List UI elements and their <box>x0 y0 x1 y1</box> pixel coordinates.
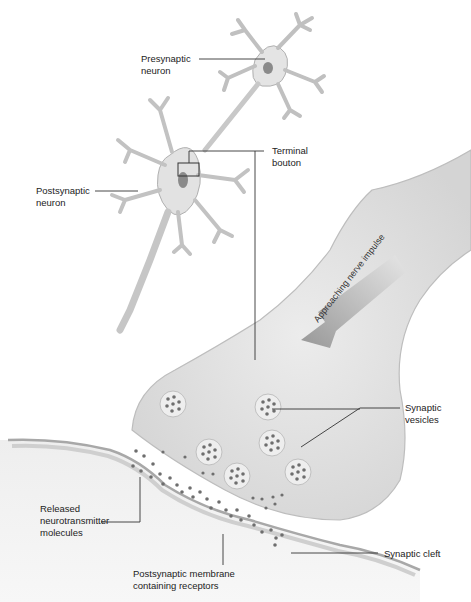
presynaptic-neuron <box>205 14 324 150</box>
label-terminal-bouton: Terminal bouton <box>272 145 308 169</box>
label-postsynaptic-membrane: Postsynaptic membrane containing recepto… <box>133 568 235 592</box>
vesicle <box>160 391 186 417</box>
label-presynaptic-neuron: Presynaptic neuron <box>141 53 191 77</box>
vesicle <box>259 430 285 456</box>
label-synaptic-vesicles: Synaptic vesicles <box>405 402 441 426</box>
vesicle <box>224 463 250 489</box>
vesicle <box>255 394 281 420</box>
vesicle <box>196 439 222 465</box>
postsynaptic-neuron <box>112 98 248 330</box>
label-released-neurotransmitter: Released neurotransmitter molecules <box>40 503 109 539</box>
vesicle <box>285 459 311 485</box>
label-synaptic-cleft: Synaptic cleft <box>384 548 441 560</box>
label-postsynaptic-neuron: Postsynaptic neuron <box>36 185 90 209</box>
